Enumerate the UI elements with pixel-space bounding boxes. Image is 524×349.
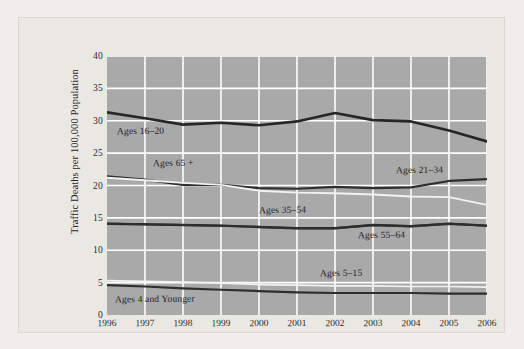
x-tick-label: 2000	[249, 318, 268, 328]
series-labels: Ages 16–20Ages 21–34Ages 65 +Ages 35–54A…	[107, 56, 487, 315]
x-tick-label: 1997	[135, 318, 154, 328]
plot-area: Ages 16–20Ages 21–34Ages 65 +Ages 35–54A…	[107, 56, 487, 315]
series-label: Ages 65 +	[153, 158, 194, 168]
y-tick-label: 30	[77, 116, 103, 126]
figure: Traffic Deaths per 100,000 Population 05…	[0, 0, 524, 349]
y-tick-label: 5	[77, 278, 103, 288]
series-label: Ages 4 and Younger	[115, 294, 195, 305]
x-tick-label: 1999	[211, 318, 230, 328]
y-tick-label: 10	[77, 245, 103, 255]
series-label: Ages 55–64	[358, 230, 405, 240]
y-tick-label: 40	[77, 51, 103, 61]
y-tick-label: 25	[77, 148, 103, 158]
series-label: Ages 21–34	[396, 164, 443, 174]
y-tick-label: 35	[77, 83, 103, 93]
x-tick-label: 1998	[173, 318, 192, 328]
y-tick-label: 15	[77, 213, 103, 223]
figure-frame: Traffic Deaths per 100,000 Population 05…	[18, 17, 505, 333]
series-label: Ages 16–20	[116, 126, 163, 136]
x-tick-label: 2002	[325, 318, 344, 328]
x-tick-label: 1996	[97, 318, 116, 328]
series-label: Ages 35–54	[259, 205, 306, 215]
x-tick-label: 2006	[477, 318, 496, 328]
x-tick-label: 2003	[363, 318, 382, 328]
y-axis-tick-labels: 0510152025303540	[71, 56, 103, 315]
x-axis-tick-labels: 1996199719981999200020012002200320042005…	[107, 318, 487, 340]
y-tick-label: 20	[77, 181, 103, 191]
x-tick-label: 2005	[439, 318, 458, 328]
series-label: Ages 5–15	[320, 268, 362, 278]
x-tick-label: 2001	[287, 318, 306, 328]
x-tick-label: 2004	[401, 318, 420, 328]
